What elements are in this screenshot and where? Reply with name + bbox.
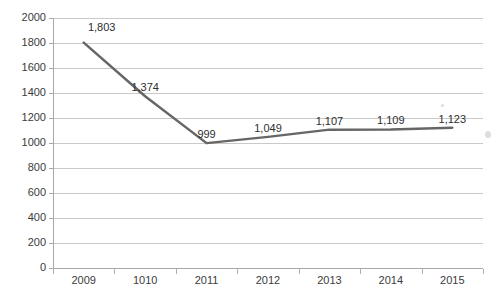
y-tick-label-1400: 1400 xyxy=(0,87,46,98)
x-tick-label-2011: 2011 xyxy=(177,275,237,286)
y-tick-mark-1800 xyxy=(49,43,53,44)
y-tick-mark-400 xyxy=(49,218,53,219)
x-tick-label-2009: 2009 xyxy=(54,275,114,286)
y-tick-label-1600: 1600 xyxy=(0,62,46,73)
x-tick-label-1010: 1010 xyxy=(115,275,175,286)
gridline-0 xyxy=(53,268,483,269)
gridline-1600 xyxy=(53,68,483,69)
x-tick-mark-0 xyxy=(53,269,54,274)
y-tick-label-2000: 2000 xyxy=(0,12,46,23)
y-tick-label-0: 0 xyxy=(0,262,46,273)
y-tick-mark-1400 xyxy=(49,93,53,94)
gridline-600 xyxy=(53,193,483,194)
data-label-1010: 1,374 xyxy=(115,82,175,93)
x-tick-label-2012: 2012 xyxy=(238,275,298,286)
y-tick-label-1200: 1200 xyxy=(0,112,46,123)
x-tick-mark-2 xyxy=(176,269,177,274)
x-tick-mark-1 xyxy=(114,269,115,274)
data-label-2011: 999 xyxy=(177,129,237,140)
data-label-2015: 1,123 xyxy=(422,114,482,125)
x-tick-label-2014: 2014 xyxy=(361,275,421,286)
artifact-speck-2 xyxy=(485,131,491,138)
line-chart: 0200400600800100012001400160018002000 20… xyxy=(0,0,500,307)
gridline-1000 xyxy=(53,143,483,144)
x-tick-label-2013: 2013 xyxy=(299,275,359,286)
y-tick-label-200: 200 xyxy=(0,237,46,248)
x-tick-mark-3 xyxy=(237,269,238,274)
y-tick-label-800: 800 xyxy=(0,162,46,173)
y-axis-line xyxy=(53,18,54,268)
gridline-1800 xyxy=(53,43,483,44)
x-tick-label-2015: 2015 xyxy=(422,275,482,286)
y-tick-label-600: 600 xyxy=(0,187,46,198)
data-label-2009: 1,803 xyxy=(72,22,132,33)
gridline-200 xyxy=(53,243,483,244)
data-label-2014: 1,109 xyxy=(361,115,421,126)
y-tick-mark-800 xyxy=(49,168,53,169)
x-tick-mark-6 xyxy=(422,269,423,274)
x-tick-mark-7 xyxy=(483,269,484,274)
y-tick-mark-1200 xyxy=(49,118,53,119)
y-tick-mark-600 xyxy=(49,193,53,194)
gridline-400 xyxy=(53,218,483,219)
x-tick-mark-5 xyxy=(360,269,361,274)
y-tick-mark-1600 xyxy=(49,68,53,69)
data-label-2013: 1,107 xyxy=(299,116,359,127)
x-tick-mark-4 xyxy=(299,269,300,274)
gridline-800 xyxy=(53,168,483,169)
y-tick-label-1000: 1000 xyxy=(0,137,46,148)
y-tick-mark-1000 xyxy=(49,143,53,144)
artifact-speck-1 xyxy=(441,104,444,107)
y-tick-mark-200 xyxy=(49,243,53,244)
data-label-2012: 1,049 xyxy=(238,123,298,134)
y-tick-label-400: 400 xyxy=(0,212,46,223)
y-tick-label-1800: 1800 xyxy=(0,37,46,48)
y-tick-mark-2000 xyxy=(49,18,53,19)
gridline-2000 xyxy=(53,18,483,19)
plot-area xyxy=(53,18,483,268)
